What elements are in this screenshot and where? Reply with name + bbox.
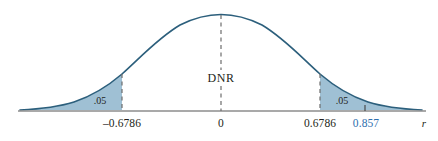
tick-label-right-critical: 0.6786 — [304, 118, 336, 130]
x-axis-variable-label: r — [422, 118, 426, 129]
left-tail-area-label: .05 — [94, 96, 107, 106]
dnr-label: DNR — [207, 72, 234, 84]
right-tail-area-label: .05 — [336, 96, 349, 106]
tick-label-center: 0 — [218, 118, 224, 130]
normal-curve-figure: DNR .05 .05 –0.6786 0 0.6786 0.857 r — [0, 0, 438, 141]
tick-label-left-critical: –0.6786 — [103, 118, 141, 130]
tick-label-test-statistic: 0.857 — [353, 118, 379, 130]
